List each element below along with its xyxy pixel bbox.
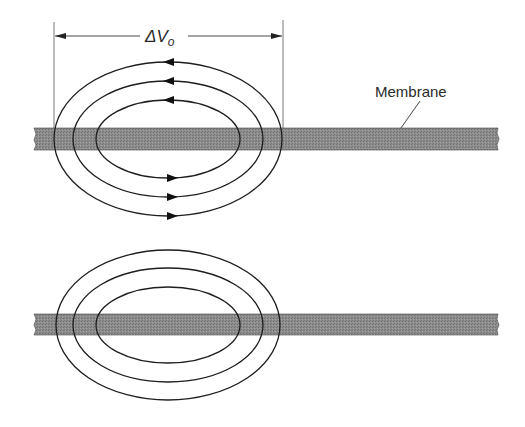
membrane-field-diagram: ΔVo Membrane [0, 0, 525, 427]
top-membrane [34, 128, 499, 150]
bottom-panel [34, 250, 499, 400]
dimension-delta-v: ΔVo [54, 20, 283, 132]
bottom-membrane [34, 314, 499, 335]
membrane-label: Membrane [375, 83, 447, 100]
arrow-right-icon [167, 193, 178, 201]
arrowhead-left-icon [55, 33, 66, 39]
arrowhead-right-icon [271, 33, 282, 39]
membrane-leader-line [401, 101, 420, 128]
arrow-left-icon [163, 96, 174, 104]
delta-v-subscript: o [168, 35, 175, 49]
arrow-right-icon [167, 212, 178, 220]
membrane-callout: Membrane [375, 83, 447, 128]
arrow-right-icon [167, 174, 178, 182]
arrow-left-icon [163, 77, 174, 85]
delta-v-label: ΔVo [144, 27, 175, 49]
delta-v-text: ΔV [144, 27, 169, 46]
arrow-left-icon [163, 58, 174, 66]
